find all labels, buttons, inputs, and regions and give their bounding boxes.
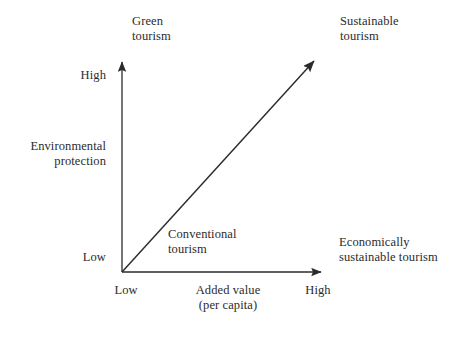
- y-axis-title: Environmental protection: [10, 139, 106, 169]
- x-axis-high-tick-label: High: [298, 283, 338, 298]
- diagram-canvas: Green tourism Sustainable tourism High E…: [0, 0, 465, 337]
- label-sustainable-tourism: Sustainable tourism: [340, 14, 460, 44]
- label-conventional-tourism: Conventional tourism: [168, 227, 288, 257]
- x-axis-low-tick-label: Low: [106, 283, 146, 298]
- y-axis-high-tick-label: High: [40, 68, 106, 83]
- label-economically-sustainable-tourism: Economically sustainable tourism: [339, 235, 465, 265]
- y-axis-low-tick-label: Low: [40, 250, 106, 265]
- x-axis-title: Added value (per capita): [168, 283, 288, 313]
- label-green-tourism: Green tourism: [132, 14, 242, 44]
